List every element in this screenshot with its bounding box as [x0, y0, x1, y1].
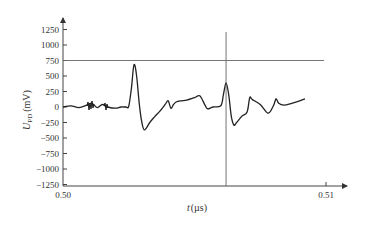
- x-tick-label: 0.51: [318, 190, 334, 200]
- y-tick-label: −1250: [36, 180, 60, 190]
- y-tick-label: 1000: [41, 40, 60, 50]
- y-tick-label: −500: [40, 133, 59, 143]
- y-tick-label: 500: [46, 71, 60, 81]
- chart: 125010007505002500−250−500−750−1000−1250…: [0, 0, 365, 226]
- y-tick-label: 0: [55, 102, 60, 112]
- signal-trace: [63, 64, 305, 129]
- x-ticks: 0.500.51: [55, 182, 334, 200]
- noise-burst: [87, 101, 108, 110]
- y-tick-label: −750: [40, 149, 59, 159]
- y-tick-label: 750: [46, 56, 60, 66]
- x-tick-label: 0.50: [55, 190, 71, 200]
- y-axis-title: UPD(mV): [21, 90, 34, 130]
- y-tick-label: 250: [46, 87, 60, 97]
- x-axis-title: t(µs): [187, 202, 207, 214]
- y-tick-label: 1250: [41, 25, 60, 35]
- y-ticks: 125010007505002500−250−500−750−1000−1250: [36, 25, 67, 190]
- y-tick-label: −1000: [36, 164, 60, 174]
- y-tick-label: −250: [40, 118, 59, 128]
